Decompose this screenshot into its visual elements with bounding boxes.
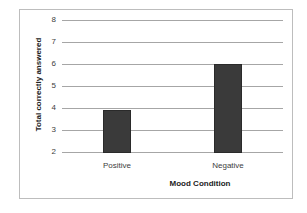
x-axis-label: Mood Condition	[140, 179, 260, 188]
y-tick-label: 5	[44, 82, 56, 90]
x-tick-label: Negative	[188, 161, 268, 170]
y-tick-label: 2	[44, 148, 56, 156]
gridline	[62, 130, 283, 131]
y-tick-label: 4	[44, 104, 56, 112]
gridline	[62, 20, 283, 21]
x-tick-label: Positive	[77, 161, 157, 170]
gridline	[62, 152, 283, 153]
gridline	[62, 108, 283, 109]
y-tick-label: 6	[44, 60, 56, 68]
y-tick-label: 8	[44, 16, 56, 24]
gridline	[62, 42, 283, 43]
gridline	[62, 86, 283, 87]
y-tick-label: 3	[44, 126, 56, 134]
y-axis-label: Total correctly answered	[34, 25, 43, 145]
bar-positive	[103, 110, 131, 153]
bar-negative	[214, 64, 242, 153]
gridline	[62, 64, 283, 65]
y-tick-label: 7	[44, 38, 56, 46]
chart-frame	[19, 9, 293, 199]
